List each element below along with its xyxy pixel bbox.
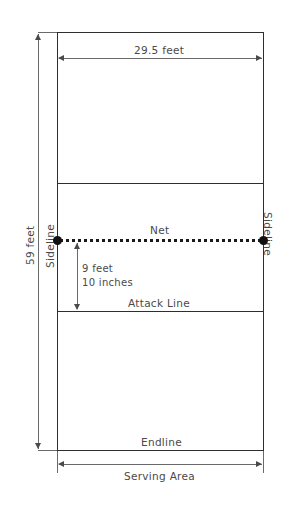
near-attack-line bbox=[57, 311, 264, 312]
serving-area-arrow-right bbox=[256, 461, 262, 467]
length-dimension-arrow-top bbox=[35, 34, 41, 40]
net-label: Net bbox=[150, 224, 169, 236]
court-width-label: 29.5 feet bbox=[134, 44, 184, 56]
court-width-dimension-line bbox=[59, 58, 262, 59]
court-length-dimension-line bbox=[38, 34, 39, 449]
sideline-left-label: Sideline bbox=[44, 224, 56, 268]
attack-distance-inches-label: 10 inches bbox=[82, 276, 133, 289]
sideline-right-label: Sideline bbox=[262, 212, 274, 256]
attack-distance-dimension-line bbox=[77, 243, 78, 309]
attack-distance-arrow-bottom bbox=[74, 304, 80, 310]
length-dimension-tick-bottom bbox=[38, 450, 57, 451]
width-dimension-arrow-left bbox=[58, 55, 64, 61]
net-line bbox=[60, 239, 263, 242]
court-top-endline bbox=[57, 32, 264, 33]
width-dimension-arrow-right bbox=[256, 55, 262, 61]
endline-label: Endline bbox=[141, 436, 182, 448]
net-post-left bbox=[53, 236, 62, 245]
serving-area-tick-left bbox=[57, 451, 58, 473]
volleyball-court-diagram: 29.5 feet 59 feet Sideline Sideline Net … bbox=[0, 0, 299, 518]
far-attack-line bbox=[57, 183, 264, 184]
serving-area-tick-right bbox=[263, 451, 264, 473]
length-dimension-tick-top bbox=[38, 32, 57, 33]
attack-line-label: Attack Line bbox=[128, 297, 190, 309]
court-length-label: 59 feet bbox=[24, 225, 36, 265]
serving-area-dimension-line bbox=[59, 464, 262, 465]
serving-area-arrow-left bbox=[58, 461, 64, 467]
court-bottom-endline bbox=[57, 450, 264, 451]
attack-distance-feet-label: 9 feet bbox=[82, 262, 113, 275]
length-dimension-arrow-bottom bbox=[35, 443, 41, 449]
serving-area-label: Serving Area bbox=[124, 470, 195, 482]
attack-distance-arrow-top bbox=[74, 243, 80, 249]
net-post-right bbox=[259, 236, 268, 245]
